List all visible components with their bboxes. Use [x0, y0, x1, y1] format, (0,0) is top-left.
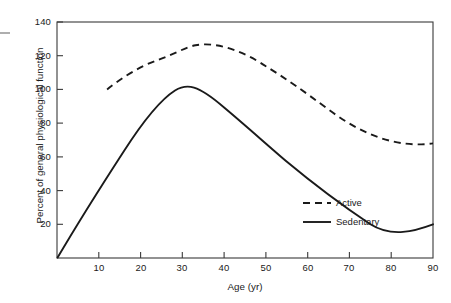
- x-tick-label-40: 40: [212, 263, 236, 273]
- x-axis-title: Age (yr): [145, 281, 345, 292]
- x-tick-label-30: 30: [170, 263, 194, 273]
- x-tick-label-90: 90: [421, 263, 445, 273]
- x-tick-label-20: 20: [129, 263, 153, 273]
- chart-plot-area: [0, 0, 451, 303]
- chart-figure: 140 120 100 80 60 40 20 10 20 30 40 50 6…: [0, 0, 451, 303]
- x-tick-label-70: 70: [337, 263, 361, 273]
- legend-label-sedentary: Sedentary: [336, 217, 379, 227]
- x-tick-label-50: 50: [254, 263, 278, 273]
- legend-label-active: Active: [336, 198, 362, 208]
- x-tick-label-10: 10: [87, 263, 111, 273]
- y-axis-title: Percent of general physiological functio…: [34, 21, 45, 251]
- x-tick-label-60: 60: [296, 263, 320, 273]
- x-tick-label-80: 80: [379, 263, 403, 273]
